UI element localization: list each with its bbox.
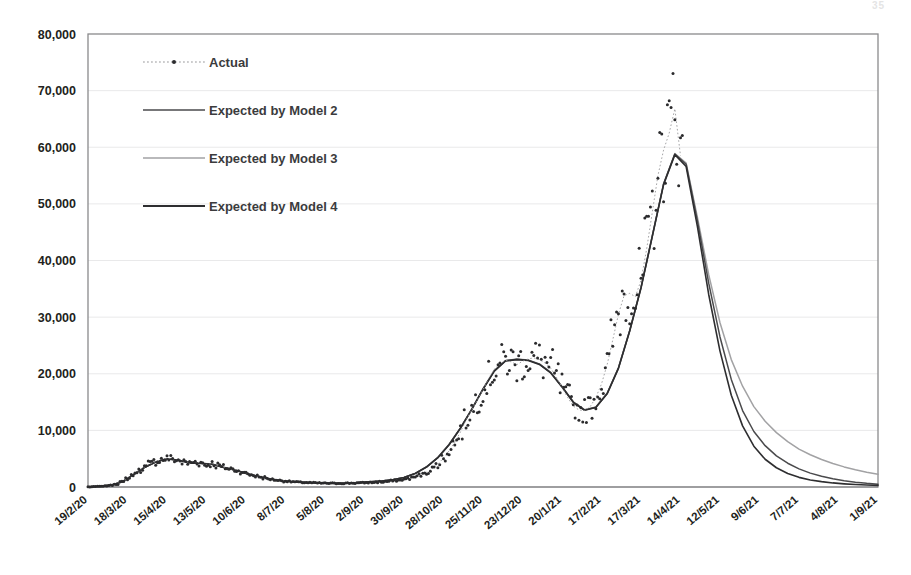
actual-data-point	[538, 343, 541, 346]
actual-data-point	[579, 406, 582, 409]
actual-data-point	[141, 469, 144, 472]
actual-data-point	[472, 410, 475, 413]
actual-data-point	[553, 371, 556, 374]
actual-data-point	[427, 472, 430, 475]
actual-data-point	[640, 277, 643, 280]
actual-data-point	[675, 163, 678, 166]
actual-data-point	[489, 383, 492, 386]
data-series-layer	[87, 72, 879, 488]
actual-data-point	[593, 398, 596, 401]
actual-data-point	[651, 190, 654, 193]
actual-data-point	[468, 419, 471, 422]
actual-data-point	[145, 464, 148, 467]
actual-data-point	[154, 464, 157, 467]
actual-data-point	[201, 461, 204, 464]
actual-data-point	[604, 366, 607, 369]
y-axis-tick-label: 0	[69, 481, 76, 495]
actual-data-point	[530, 351, 533, 354]
actual-data-point	[459, 424, 462, 427]
x-axis-tick-label: 25/11/20	[443, 493, 485, 531]
actual-data-point	[167, 459, 170, 462]
y-axis-tick-label: 30,000	[38, 311, 76, 325]
actual-data-point	[670, 106, 673, 109]
actual-data-point	[463, 408, 466, 411]
actual-data-point	[152, 458, 155, 461]
actual-data-point	[660, 132, 663, 135]
actual-data-point	[449, 448, 452, 451]
actual-data-point	[483, 388, 486, 391]
actual-data-point	[500, 343, 503, 346]
actual-data-point	[641, 274, 644, 277]
x-axis-tick-label: 13/5/20	[171, 493, 208, 527]
x-axis-tick-label: 14/4/21	[645, 493, 683, 527]
actual-data-point	[576, 403, 579, 406]
actual-data-point	[638, 247, 641, 250]
x-axis-tick-label: 7/7/21	[768, 493, 801, 523]
actual-data-point	[525, 365, 528, 368]
actual-data-point	[545, 361, 548, 364]
actual-data-point	[656, 177, 659, 180]
actual-data-point	[515, 379, 518, 382]
actual-data-point	[135, 471, 138, 474]
actual-data-point	[158, 461, 161, 464]
y-axis-tick-label: 70,000	[38, 84, 76, 98]
actual-data-point	[572, 403, 575, 406]
series-line-model-4	[88, 155, 878, 487]
actual-data-point	[519, 350, 522, 353]
actual-data-point	[461, 437, 464, 440]
actual-data-point	[512, 350, 515, 353]
actual-data-point	[436, 466, 439, 469]
actual-data-point	[561, 373, 564, 376]
actual-data-point	[194, 460, 197, 463]
actual-data-point	[617, 312, 620, 315]
actual-data-point	[628, 322, 631, 325]
actual-data-point	[634, 307, 637, 310]
actual-data-point	[673, 118, 676, 121]
y-axis-tick-label: 80,000	[38, 28, 76, 42]
actual-data-point	[630, 312, 633, 315]
actual-data-point	[583, 398, 586, 401]
page-number: 35	[872, 0, 885, 11]
actual-data-point	[636, 293, 639, 296]
actual-data-point	[536, 356, 539, 359]
x-axis-tick-label: 9/6/21	[729, 493, 762, 523]
actual-data-point	[261, 477, 264, 480]
legend-label: Expected by Model 2	[209, 103, 338, 118]
x-axis-tick-label: 1/9/21	[847, 493, 880, 523]
actual-data-point	[466, 424, 469, 427]
actual-data-point	[514, 363, 517, 366]
actual-data-point	[611, 345, 614, 348]
x-axis-tick-label: 4/8/21	[808, 493, 841, 523]
actual-data-point	[540, 358, 543, 361]
actual-data-point	[506, 373, 509, 376]
x-axis-tick-label: 18/3/20	[92, 493, 129, 527]
actual-data-point	[179, 460, 182, 463]
actual-data-point	[681, 134, 684, 137]
actual-data-point	[555, 369, 558, 372]
actual-data-point	[609, 318, 612, 321]
actual-data-point	[577, 419, 580, 422]
actual-data-point	[419, 475, 422, 478]
y-axis-tick-labels: 010,00020,00030,00040,00050,00060,00070,…	[38, 28, 76, 495]
actual-data-point	[551, 348, 554, 351]
actual-data-point	[474, 393, 477, 396]
actual-data-point	[672, 72, 675, 75]
x-axis-tick-label: 10/6/20	[210, 493, 247, 527]
y-axis-tick-label: 50,000	[38, 197, 76, 211]
x-axis-tick-labels: 19/2/2018/3/2015/4/2013/5/2010/6/208/7/2…	[52, 493, 880, 531]
actual-data-point	[523, 375, 526, 378]
y-axis-tick-label: 60,000	[38, 141, 76, 155]
actual-data-point	[624, 319, 627, 322]
actual-data-point	[647, 215, 650, 218]
y-axis-tick-label: 40,000	[38, 254, 76, 268]
actual-data-point	[169, 454, 172, 457]
actual-data-point	[457, 437, 460, 440]
x-axis-tick-label: 28/10/20	[403, 493, 445, 531]
actual-data-point	[198, 465, 201, 468]
x-axis-tick-label: 19/2/20	[52, 493, 89, 527]
actual-data-point	[534, 342, 537, 345]
actual-data-point	[547, 365, 550, 368]
actual-data-point	[598, 397, 601, 400]
actual-data-points	[87, 72, 684, 488]
x-axis-tick-label: 8/7/20	[255, 493, 287, 523]
